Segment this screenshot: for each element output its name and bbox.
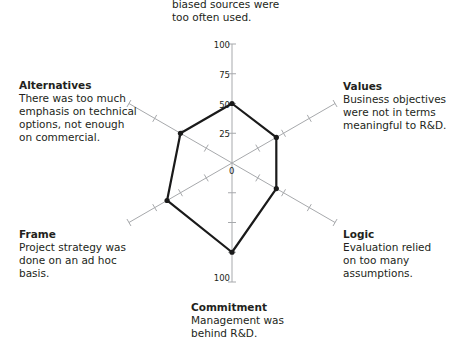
svg-text:100: 100 (214, 40, 230, 50)
svg-text:0: 0 (229, 166, 234, 176)
data-point-source (229, 101, 234, 106)
label-values-title: Values (343, 80, 460, 93)
data-point-frame (164, 198, 169, 203)
label-top: biased sources were too often used. (172, 0, 302, 24)
label-alternatives: Alternatives There was too much emphasis… (19, 79, 149, 144)
label-commitment-desc: Management was behind R&D. (191, 314, 311, 340)
label-frame-title: Frame (19, 228, 149, 241)
data-point-values (274, 135, 279, 140)
label-alternatives-desc: There was too much emphasis on technical… (19, 92, 149, 144)
label-alternatives-title: Alternatives (19, 79, 149, 92)
data-point-commitment (229, 250, 234, 255)
label-frame-desc: Project strategy was done on an ad hoc b… (19, 241, 149, 280)
data-polygon (167, 104, 276, 253)
label-logic-desc: Evaluation relied on too many assumption… (343, 241, 460, 280)
label-values: Values Business objectives were not in t… (343, 80, 460, 132)
svg-text:75: 75 (219, 70, 230, 80)
data-point-logic (274, 186, 279, 191)
label-logic: Logic Evaluation relied on too many assu… (343, 228, 460, 280)
data-point-alternatives (178, 131, 183, 136)
label-logic-title: Logic (343, 228, 460, 241)
label-top-desc: biased sources were too often used. (172, 0, 302, 24)
label-commitment: Commitment Management was behind R&D. (191, 301, 311, 340)
svg-text:100: 100 (214, 273, 230, 283)
label-commitment-title: Commitment (191, 301, 311, 314)
label-frame: Frame Project strategy was done on an ad… (19, 228, 149, 280)
label-values-desc: Business objectives were not in terms me… (343, 93, 460, 132)
svg-text:25: 25 (219, 129, 230, 139)
